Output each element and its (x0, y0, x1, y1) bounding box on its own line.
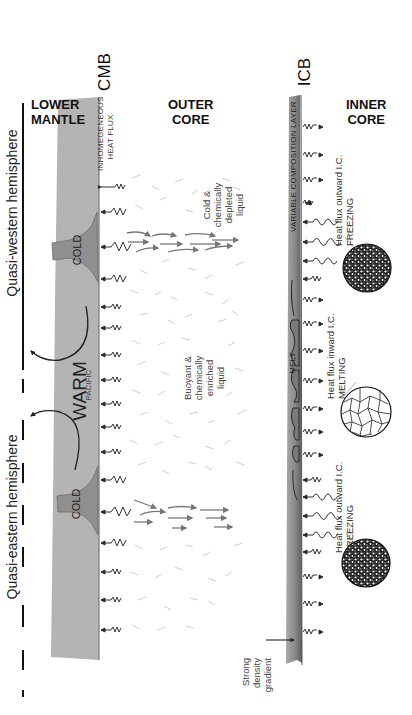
inhomogeneous-heat-flux-label: INHOMEGENEOUS HEAT FLUX (96, 103, 118, 171)
cold-label-top: COLD (71, 232, 85, 268)
outer-core-line-2: CORE (168, 112, 214, 127)
cold-liquid-line-4: liquid (234, 177, 245, 233)
cold-liquid-line-3: depleted (223, 177, 234, 233)
density-gradient-label: Strong density gradient (240, 658, 276, 698)
cold-liquid-line-1: Cold & (201, 177, 212, 233)
melting-line-1: Heat flux inward I.C. (325, 295, 336, 399)
melt-label: MELT (288, 351, 298, 375)
freezing-bottom-line-2: FREEZING (344, 449, 355, 553)
lower-mantle-line-1: LOWER (31, 97, 85, 112)
freezing-label-bottom: Heat flux outward I.C. FREEZING (333, 449, 355, 553)
region-title-outer-core: OUTER CORE (168, 97, 214, 127)
freezing-bottom-line-1: Heat flux outward I.C. (333, 449, 344, 553)
buoyant-liquid-line-1: Buoyant & (182, 350, 193, 406)
region-title-lower-mantle: LOWER MANTLE (31, 97, 85, 127)
cold-liquid-arrows-bottom (134, 500, 232, 528)
cmb-heat-flux-squiggles (101, 184, 131, 632)
region-title-inner-core: INNER CORE (346, 97, 386, 127)
melting-crystal (341, 387, 391, 437)
melting-label: Heat flux inward I.C. MELTING (325, 295, 347, 399)
freezing-label-top: Heat flux outward I.C. FREEZING (333, 142, 355, 246)
cmb-label: CMB (95, 52, 115, 92)
cold-liquid-line-2: chemically (212, 177, 223, 233)
freezing-top-line-1: Heat flux outward I.C. (333, 142, 344, 246)
buoyant-enriched-liquid-label: Buoyant & chemically enriched liquid (182, 350, 228, 406)
buoyant-liquid-line-3: enriched (204, 350, 215, 406)
heat-flux-line-1: INHOMEGENEOUS (96, 103, 106, 171)
variable-composition-layer-label: VARIABLE COMPOSITION LAYER (289, 104, 299, 232)
density-line-3: gradient (262, 658, 273, 698)
heat-flux-line-2: HEAT FLUX (106, 103, 116, 171)
eastern-hemisphere-label: Quasi-eastern hemisphere (4, 432, 22, 602)
western-hemisphere-label: Quasi-western hemisphere (4, 128, 22, 298)
density-line-2: density (251, 658, 262, 698)
inner-core-line-2: CORE (346, 112, 386, 127)
melting-line-2: MELTING (336, 295, 347, 399)
freezing-crystal-top (343, 244, 391, 292)
cold-label-bottom: COLD (70, 486, 84, 522)
cold-depleted-liquid-label: Cold & chemically depleted liquid (201, 177, 247, 233)
density-line-1: Strong (240, 658, 251, 698)
pacific-label: PACIFIC (84, 365, 94, 405)
inner-core-line-1: INNER (346, 97, 386, 112)
buoyant-liquid-line-4: liquid (215, 350, 226, 406)
freezing-top-line-2: FREEZING (344, 142, 355, 246)
buoyant-liquid-line-2: chemically (193, 350, 204, 406)
icb-label: ICB (295, 52, 315, 92)
cold-liquid-arrows-top (127, 232, 238, 252)
lower-mantle-line-2: MANTLE (31, 112, 85, 127)
outer-core-line-1: OUTER (168, 97, 214, 112)
